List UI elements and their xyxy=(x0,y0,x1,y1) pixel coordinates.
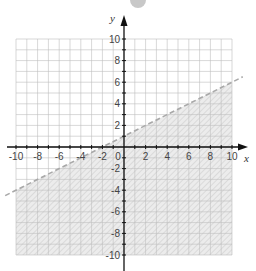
svg-text:2: 2 xyxy=(114,120,120,131)
svg-text:-10: -10 xyxy=(106,250,121,261)
svg-text:10: 10 xyxy=(226,151,238,162)
svg-text:-4: -4 xyxy=(111,185,120,196)
y-axis-label: y xyxy=(109,12,115,24)
svg-text:0: 0 xyxy=(115,151,121,162)
svg-text:4: 4 xyxy=(114,98,120,109)
svg-text:-6: -6 xyxy=(111,206,120,217)
svg-text:-8: -8 xyxy=(33,151,42,162)
svg-text:2: 2 xyxy=(143,151,149,162)
x-axis-label: x xyxy=(243,152,249,164)
svg-text:6: 6 xyxy=(114,77,120,88)
svg-text:-2: -2 xyxy=(111,163,120,174)
svg-text:-6: -6 xyxy=(55,151,64,162)
coordinate-plane: -10-8-6-4-20246810-10-8-6-4-2246810 x y xyxy=(0,0,256,271)
svg-text:10: 10 xyxy=(109,34,121,45)
svg-text:-10: -10 xyxy=(9,151,24,162)
svg-text:-4: -4 xyxy=(76,151,85,162)
svg-text:8: 8 xyxy=(208,151,214,162)
svg-text:8: 8 xyxy=(114,55,120,66)
svg-text:-8: -8 xyxy=(111,228,120,239)
svg-text:6: 6 xyxy=(186,151,192,162)
svg-text:-2: -2 xyxy=(98,151,107,162)
svg-text:4: 4 xyxy=(164,151,170,162)
